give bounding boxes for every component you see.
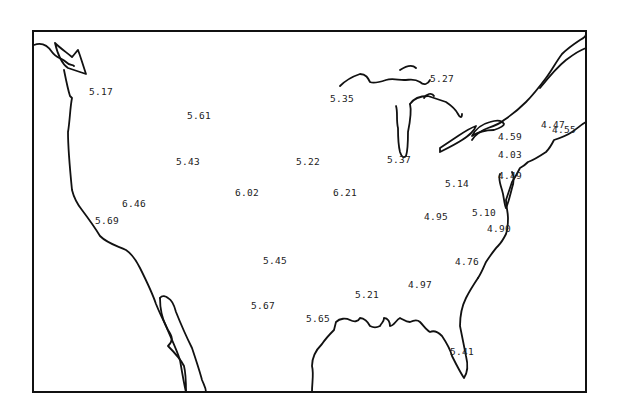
data-label-md: 5.10	[472, 207, 496, 218]
data-label-mi: 5.37	[387, 154, 411, 165]
data-label-co: 6.02	[235, 187, 259, 198]
coastline-outline	[0, 0, 621, 415]
data-label-wa: 5.17	[89, 86, 113, 97]
data-label-ms: 5.21	[355, 289, 379, 300]
data-label-sd: 5.22	[296, 156, 320, 167]
data-label-tx-w: 5.67	[251, 300, 275, 311]
data-label-nj: 4.49	[498, 170, 522, 181]
data-label-mi-up: 5.27	[430, 73, 454, 84]
data-label-va: 4.90	[487, 223, 511, 234]
data-label-ca-n: 5.69	[95, 215, 119, 226]
data-label-tx-e: 5.65	[306, 313, 330, 324]
data-label-oh: 5.14	[445, 178, 469, 189]
data-label-mt: 5.61	[187, 110, 211, 121]
data-label-ky: 4.95	[424, 211, 448, 222]
data-label-ga: 4.97	[408, 279, 432, 290]
data-label-sc: 4.76	[455, 256, 479, 267]
data-label-ne: 6.21	[333, 187, 357, 198]
data-label-ok: 5.45	[263, 255, 287, 266]
data-label-nv: 6.46	[122, 198, 146, 209]
data-label-ny: 4.59	[498, 131, 522, 142]
data-label-nh: 4.47	[541, 119, 565, 130]
us-map: 5.17 5.61 5.35 5.27 4.55 4.47 5.43 5.22 …	[0, 0, 621, 415]
data-label-nd: 5.35	[330, 93, 354, 104]
data-label-fl: 5.41	[450, 346, 474, 357]
data-label-pa: 4.03	[498, 149, 522, 160]
data-label-wy: 5.43	[176, 156, 200, 167]
